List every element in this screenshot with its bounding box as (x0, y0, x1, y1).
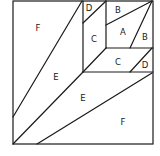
b-top-diagonal (106, 1, 152, 25)
label-f: F (36, 23, 41, 33)
label-c: C (91, 34, 97, 44)
label-d: D (86, 3, 93, 13)
outer-f-e-diagonal (13, 1, 82, 117)
label-b: B (142, 32, 148, 42)
label-a: A (120, 27, 126, 37)
label-f: F (121, 117, 126, 127)
e-e-diagonal (13, 72, 83, 144)
label-e: E (80, 93, 85, 103)
b-right-diagonal (130, 1, 152, 48)
quilt-diagram: F D B A B C C D E E F (0, 0, 160, 156)
label-e: E (53, 72, 58, 82)
c-c-diagonal (83, 48, 106, 72)
label-d: D (142, 60, 149, 70)
label-c: C (115, 57, 121, 67)
e-f-diagonal (37, 73, 152, 144)
label-b: B (115, 5, 121, 15)
